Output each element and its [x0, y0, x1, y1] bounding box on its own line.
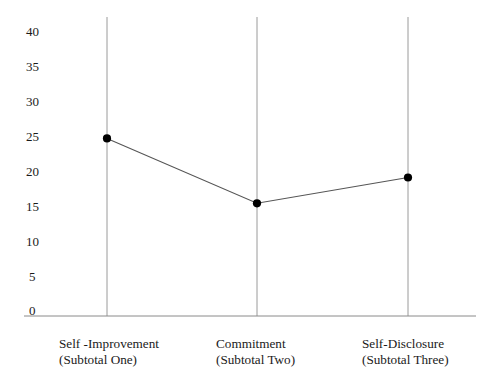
gridlines-group: [107, 17, 408, 316]
chart-plot-area: [0, 0, 500, 383]
y-axis-tick-label: 10: [26, 235, 39, 248]
category-label-line2: (Subtotal Two): [216, 352, 295, 368]
y-axis-tick-label: 40: [26, 25, 39, 38]
data-point-marker: [404, 173, 412, 181]
x-axis-category-label-1: Self -Improvement (Subtotal One): [59, 336, 159, 367]
x-axis-category-label-3: Self-Disclosure (Subtotal Three): [362, 336, 449, 367]
y-axis-tick-label: 0: [29, 304, 36, 317]
line-chart: 40 35 30 25 20 15 10 5 0 Self -Improveme…: [0, 0, 500, 383]
x-axis-category-label-2: Commitment (Subtotal Two): [216, 336, 295, 367]
category-label-line1: Self -Improvement: [59, 336, 159, 351]
y-axis-tick-label: 15: [26, 200, 39, 213]
category-label-line2: (Subtotal Three): [362, 352, 449, 368]
data-point-marker: [103, 134, 111, 142]
y-axis-tick-label: 5: [29, 270, 36, 283]
category-label-line1: Self-Disclosure: [362, 336, 444, 351]
y-axis-tick-label: 20: [26, 165, 39, 178]
data-point-marker: [253, 199, 261, 207]
y-axis-tick-label: 30: [26, 95, 39, 108]
category-label-line2: (Subtotal One): [59, 352, 159, 368]
y-axis-tick-label: 35: [26, 60, 39, 73]
y-axis-tick-label: 25: [26, 130, 39, 143]
category-label-line1: Commitment: [216, 336, 286, 351]
